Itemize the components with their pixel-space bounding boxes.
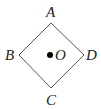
- center-point-o: [47, 52, 53, 58]
- label-a: A: [45, 4, 56, 20]
- label-c: C: [46, 92, 57, 108]
- label-b: B: [5, 47, 14, 63]
- label-d: D: [85, 47, 97, 63]
- diagram-canvas: A B C D O: [0, 0, 101, 109]
- label-o: O: [55, 47, 66, 63]
